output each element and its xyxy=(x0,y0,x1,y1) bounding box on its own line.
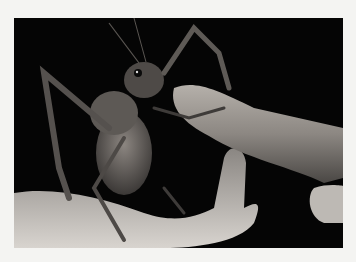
photograph xyxy=(14,18,343,248)
weta-photo-illustration xyxy=(14,18,343,248)
